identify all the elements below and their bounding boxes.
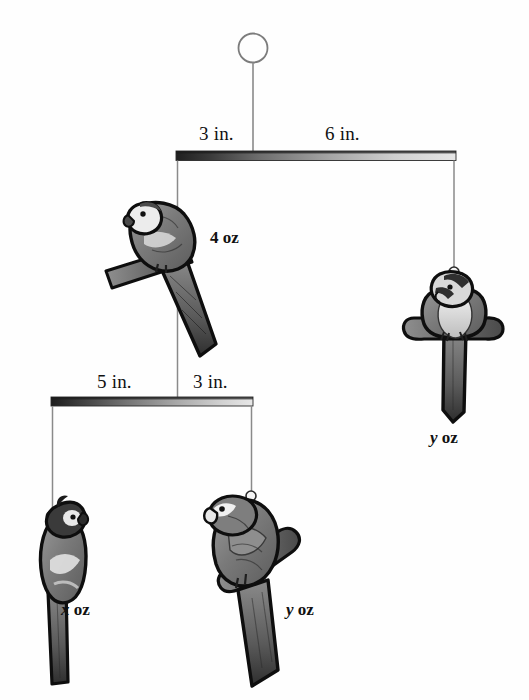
lower-beam-left-length-label: 5 in.	[97, 371, 132, 393]
top-left-bird-weight-label: 4 oz	[210, 228, 239, 248]
bottom-right-bird-weight-label: y oz	[286, 600, 314, 620]
bird-top-right-parrot	[403, 267, 503, 422]
top-beam-right-length-label: 6 in.	[325, 123, 360, 145]
top-right-bird-weight-label: y oz	[430, 428, 458, 448]
bottom-left-bird-weight-label: x oz	[61, 600, 90, 620]
bottom-right-bird-weight-variable: y	[286, 600, 294, 619]
figure-canvas: 3 in. 6 in. 4 oz y oz 5 in. 3 in. x oz y…	[0, 0, 529, 700]
lower-beam-right-length-label: 3 in.	[193, 371, 228, 393]
bird-bottom-left-parrot	[40, 495, 88, 684]
lower-beam	[51, 397, 253, 406]
top-right-bird-weight-variable: y	[430, 428, 438, 447]
bottom-left-bird-weight-unit: oz	[74, 600, 90, 619]
top-right-bird-weight-unit: oz	[442, 428, 458, 447]
bottom-right-bird-weight-unit: oz	[298, 600, 314, 619]
bird-top-left-parrot	[106, 202, 216, 356]
hanging-ring	[239, 34, 268, 63]
mobile-diagram	[0, 0, 529, 700]
top-beam	[176, 151, 456, 161]
bird-bottom-right-parrot	[204, 491, 299, 686]
top-beam-left-length-label: 3 in.	[199, 123, 234, 145]
bottom-left-bird-weight-variable: x	[61, 600, 70, 619]
